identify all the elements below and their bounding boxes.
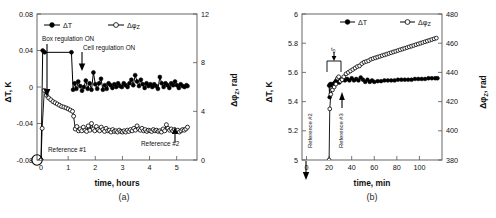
x-tick-label: 4	[148, 163, 152, 172]
panel-a: 012345-0.08-0.0400.040.0804812 ΔT ΔφZ Bo…	[0, 0, 248, 218]
y2-tick-label: 480	[446, 10, 458, 19]
panel-b: 02040608010055.25.45.65.8638040042044046…	[248, 0, 496, 218]
legend-marker-dt	[50, 23, 55, 28]
x-tick-label: 5	[175, 163, 179, 172]
legend-label-dphi: ΔφZ	[127, 21, 140, 31]
annotation-arrow-cell	[79, 52, 85, 71]
y-tick-label: 5.6	[288, 68, 298, 77]
annotation-reference-2: Reference #2	[141, 140, 180, 147]
panel-b-plot-frame	[302, 14, 442, 160]
annotation-cell-regulation: Cell regulation ON	[83, 44, 136, 52]
legend-marker-dphi-b	[405, 20, 410, 25]
y2-tick-label: 12	[201, 10, 209, 19]
figure-container: 012345-0.08-0.0400.040.0804812 ΔT ΔφZ Bo…	[0, 0, 496, 218]
panel-a-ylabel: ΔT, K	[3, 82, 13, 103]
y2-tick-label: 460	[446, 39, 458, 48]
annotation-t0-label: t0	[331, 46, 336, 54]
y-tick-label: 0	[29, 83, 33, 92]
y2-tick-label: 4	[201, 107, 205, 116]
panel-b-y2label: ΔφZ, rad	[478, 75, 489, 108]
panel-b-legend: ΔT ΔφZ	[340, 18, 431, 28]
panel-a-caption: (a)	[0, 192, 248, 202]
y2-tick-label: 0	[201, 156, 205, 165]
y2-tick-label: 380	[446, 156, 458, 165]
panel-a-y2label: ΔφZ, rad	[229, 73, 240, 106]
y-tick-label: 6	[294, 10, 298, 19]
y-tick-label: 5.4	[288, 97, 298, 106]
y-tick-label: -0.04	[17, 119, 33, 128]
panel-b-plot: 02040608010055.25.45.65.8638040042044046…	[248, 0, 496, 192]
x-tick-label: 80	[393, 163, 401, 172]
y2-tick-label: 420	[446, 97, 458, 106]
annotation-reference-2-b: Reference #2	[307, 113, 313, 148]
y-tick-label: 0.04	[19, 46, 33, 55]
y2-tick-label: 440	[446, 68, 458, 77]
x-tick-label: 60	[370, 163, 378, 172]
panel-b-xlabel: time, min	[354, 178, 391, 188]
x-tick-label: 20	[325, 163, 333, 172]
legend-label-dphi-b: ΔφZ	[418, 18, 431, 28]
y-tick-label: 5.2	[288, 126, 298, 135]
y-tick-label: 5	[294, 156, 298, 165]
x-tick-label: 40	[348, 163, 356, 172]
annotation-box-regulation: Box regulation ON	[42, 35, 95, 43]
legend-label-dt: ΔT	[63, 21, 73, 30]
annotation-reference-1: Reference #1	[48, 146, 87, 153]
legend-marker-dt-b	[345, 20, 350, 25]
panel-b-caption: (b)	[248, 192, 496, 202]
reference-3-axis-arrow	[339, 92, 345, 108]
x-tick-label: 2	[93, 163, 97, 172]
legend-label-dt-b: ΔT	[358, 18, 368, 27]
x-tick-label: 1	[66, 163, 70, 172]
panel-a-legend: ΔT ΔφZ	[44, 21, 140, 31]
annotation-reference-3-b: Reference #3	[338, 113, 344, 148]
panel-b-ylabel: ΔT, K	[264, 82, 274, 103]
y-tick-label: 0.08	[19, 10, 33, 19]
y2-tick-label: 8	[201, 58, 205, 67]
x-tick-label: 3	[120, 163, 124, 172]
panel-a-plot: 012345-0.08-0.0400.040.0804812 ΔT ΔφZ Bo…	[0, 0, 248, 192]
y-tick-label: -0.08	[17, 156, 33, 165]
legend-marker-dphi	[114, 23, 119, 28]
panel-a-xlabel: time, hours	[94, 178, 139, 188]
annotation-t0-bracket	[327, 52, 341, 72]
y-tick-label: 5.8	[288, 39, 298, 48]
y2-tick-label: 400	[446, 126, 458, 135]
x-tick-label: 100	[413, 163, 425, 172]
